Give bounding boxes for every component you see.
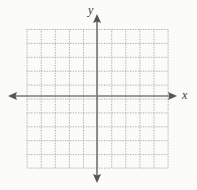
x-axis-label: x [182, 89, 187, 101]
y-axis-label: y [88, 4, 93, 16]
coordinate-plane-svg [0, 0, 197, 190]
coordinate-plane-figure: y x [0, 0, 197, 190]
